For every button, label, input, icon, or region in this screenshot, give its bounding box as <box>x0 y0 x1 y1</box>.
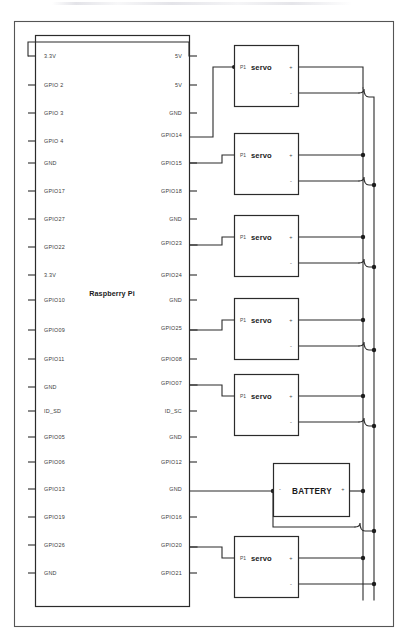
pin-label-right-3: GPIO14 <box>161 132 182 138</box>
servo-6-ref: P1 <box>240 555 246 561</box>
junction-servo2-minus <box>372 183 376 187</box>
circuit-schematic-svg: Raspberry Pi 3.3V GPI <box>0 0 408 643</box>
junction-servo3-minus <box>372 265 376 269</box>
junction-servo6-plus <box>361 556 365 560</box>
pin-label-right-18: GPIO20 <box>161 542 182 548</box>
servo-block-1[interactable]: P1 servo + - <box>235 46 299 107</box>
servo-block-3[interactable]: P1 servo + - <box>235 216 299 277</box>
servo-4-ref: P1 <box>240 317 246 323</box>
wire-gpio15-to-servo2 <box>190 155 235 163</box>
pin-label-right-19: GPIO21 <box>161 570 182 576</box>
servo-6-label: servo <box>251 554 272 563</box>
servo-4-plus: + <box>289 317 292 323</box>
servo-5-label: servo <box>251 392 272 401</box>
pin-label-left-13: ID_SD <box>44 408 61 414</box>
wire-gpio14-to-servo1 <box>190 67 235 137</box>
servo-1-body <box>235 46 299 107</box>
junction-battery-negative-bus <box>372 529 376 533</box>
pin-label-right-11: GPIO08 <box>161 356 182 362</box>
pin-label-right-1: 5V <box>175 82 182 88</box>
servo-4-label: servo <box>251 316 272 325</box>
servo-block-4[interactable]: P1 servo + - <box>235 299 299 360</box>
servo-6-body <box>235 537 299 598</box>
servo-5-ref: P1 <box>240 393 246 399</box>
servo-4-body <box>235 299 299 360</box>
battery-plus: + <box>341 486 344 492</box>
servo-5-plus: + <box>289 393 292 399</box>
battery-block[interactable]: BATTERY - + <box>274 464 350 517</box>
wire-servo4-minus-hop <box>359 342 374 350</box>
servo-2-body <box>235 134 299 195</box>
servo-3-minus: - <box>290 260 292 266</box>
pin-label-right-0: 5V <box>175 53 182 59</box>
pin-label-left-18: GPIO26 <box>44 542 65 548</box>
left-pin-stubs <box>28 56 36 573</box>
servo-block-2[interactable]: P1 servo + - <box>235 134 299 195</box>
pin-label-left-12: GND <box>44 384 57 390</box>
junction-battery-plus <box>361 489 365 493</box>
pin-label-left-16: GPIO13 <box>44 486 65 492</box>
servo-2-ref: P1 <box>240 152 246 158</box>
servo-1-label: servo <box>251 63 272 72</box>
pin-label-left-5: GPIO17 <box>44 188 65 194</box>
pin-label-left-3: GPIO 4 <box>44 138 63 144</box>
pin-label-left-9: GPIO10 <box>44 297 65 303</box>
servo-3-ref: P1 <box>240 234 246 240</box>
wire-gpio20-to-servo6 <box>190 547 235 558</box>
servo-1-plus: + <box>289 64 292 70</box>
servo-3-plus: + <box>289 234 292 240</box>
pin-label-right-9: GND <box>169 297 182 303</box>
wire-servo3-minus-hop <box>359 259 374 267</box>
servo-1-ref: P1 <box>240 64 246 70</box>
junction-servo5-plus <box>361 394 365 398</box>
pin-label-left-11: GPIO11 <box>44 356 65 362</box>
pin-label-right-2: GND <box>169 110 182 116</box>
pin-label-left-2: GPIO 3 <box>44 110 63 116</box>
pin-label-right-7: GPIO23 <box>161 240 182 246</box>
pin-label-left-7: GPIO22 <box>44 244 65 250</box>
pin-label-left-1: GPIO 2 <box>44 82 63 88</box>
pin-label-left-19: GND <box>44 570 57 576</box>
servo-2-minus: - <box>290 178 292 184</box>
raspberry-pi-label: Raspberry Pi <box>89 289 135 298</box>
junction-servo4-minus <box>372 348 376 352</box>
right-pin-stubs <box>190 56 198 573</box>
servo-2-plus: + <box>289 152 292 158</box>
servo-3-label: servo <box>251 233 272 242</box>
servo-block-6[interactable]: P1 servo + - <box>235 537 299 598</box>
wire-gpio07-to-servo5 <box>190 385 235 396</box>
pin-label-right-10: GPIO25 <box>161 325 182 331</box>
servo-5-body <box>235 375 299 436</box>
wire-gpio23-to-servo3 <box>190 237 235 245</box>
pin-label-left-0: 3.3V <box>44 53 56 59</box>
raspberry-pi-body <box>36 36 190 607</box>
junction-servo4-plus <box>361 318 365 322</box>
wire-gpio25-to-servo4 <box>190 320 235 330</box>
pin-label-right-5: GPIO18 <box>161 188 182 194</box>
pin-label-right-14: GND <box>169 434 182 440</box>
pin-label-right-8: GPIO24 <box>161 272 182 278</box>
servo-block-5[interactable]: P1 servo + - <box>235 375 299 436</box>
pin-label-right-12: GPIO07 <box>161 380 182 386</box>
battery-label: BATTERY <box>292 487 332 496</box>
pin-label-right-4: GPIO15 <box>161 160 182 166</box>
junction-servo3-plus <box>361 235 365 239</box>
schematic-canvas: Raspberry Pi 3.3V GPI <box>0 0 408 643</box>
wire-servo5-minus-hop <box>359 418 374 426</box>
pin-label-right-6: GND <box>169 216 182 222</box>
servo-3-body <box>235 216 299 277</box>
battery-minus: - <box>279 486 281 492</box>
pin-label-right-15: GPIO12 <box>161 459 182 465</box>
pin-label-right-17: GPIO16 <box>161 514 182 520</box>
servo-1-minus: - <box>290 90 292 96</box>
servo-5-minus: - <box>290 419 292 425</box>
pin-label-left-14: GPIO05 <box>44 434 65 440</box>
pin-label-left-15: GPIO06 <box>44 459 65 465</box>
servo-6-minus: - <box>290 581 292 587</box>
pin-label-left-6: GPIO27 <box>44 216 65 222</box>
servo-6-plus: + <box>289 555 292 561</box>
pin-label-left-10: GPIO09 <box>44 327 65 333</box>
pin-label-left-17: GPIO19 <box>44 514 65 520</box>
pin-label-right-16: GND <box>169 486 182 492</box>
wire-servo1-minus-hop-to-bus <box>359 89 374 600</box>
